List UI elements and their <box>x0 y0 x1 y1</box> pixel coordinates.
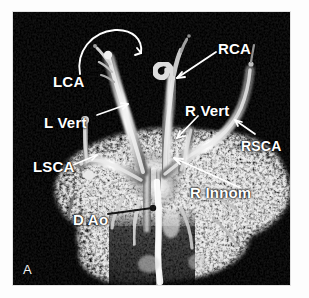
label-l-vert: L Vert <box>44 115 87 130</box>
panel-letter-a: A <box>23 263 32 276</box>
label-lca: LCA <box>53 74 84 89</box>
label-r-vert: R Vert <box>185 103 230 118</box>
label-lsca: LSCA <box>33 159 75 174</box>
label-rca: RCA <box>218 41 251 56</box>
label-r-innom: R Innom <box>190 185 251 200</box>
mra-image-panel: LCA L Vert LSCA D Ao RCA R Vert RSCA R I… <box>13 12 290 285</box>
caption-sliver <box>18 289 290 296</box>
figure-root: LCA L Vert LSCA D Ao RCA R Vert RSCA R I… <box>0 0 309 298</box>
label-d-ao: D Ao <box>73 212 108 227</box>
label-rsca: RSCA <box>241 139 281 153</box>
